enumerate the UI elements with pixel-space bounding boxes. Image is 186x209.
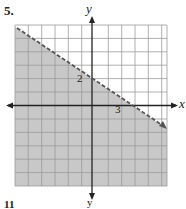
- tick-label-2: 2: [77, 73, 83, 84]
- y-axis-label-bottom: y: [87, 197, 93, 208]
- tick-label-3: 3: [115, 104, 121, 115]
- shaded-region: [15, 27, 167, 186]
- next-problem-number: 11: [4, 199, 14, 209]
- x-axis-label: x: [179, 97, 185, 110]
- y-axis-label-top: y: [86, 2, 92, 15]
- inequality-graph: [0, 0, 186, 209]
